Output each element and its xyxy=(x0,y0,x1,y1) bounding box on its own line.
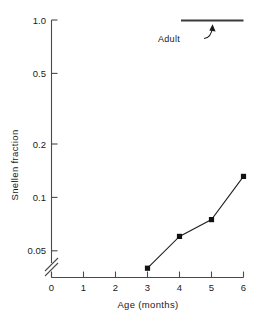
snellen-fraction-chart: 1.0 0.5 0.2 0.1 0.05 0 1 2 3 4 5 6 Age (… xyxy=(0,0,256,326)
x-tick-label: 6 xyxy=(241,282,246,293)
chart-canvas: 1.0 0.5 0.2 0.1 0.05 0 1 2 3 4 5 6 Age (… xyxy=(0,0,256,326)
x-tick-label: 3 xyxy=(145,282,150,293)
y-tick-label: 0.05 xyxy=(28,245,47,256)
data-point xyxy=(241,174,246,179)
x-tick-label: 2 xyxy=(113,282,118,293)
x-tick-label: 4 xyxy=(177,282,182,293)
y-axis-title-text: Snellen fraction xyxy=(9,129,20,200)
x-axis-title: Age (months) xyxy=(117,299,178,310)
x-tick-label: 1 xyxy=(81,282,86,293)
y-tick-label: 0.2 xyxy=(33,139,46,150)
adult-label: Adult xyxy=(158,34,180,44)
y-tick-label: 0.5 xyxy=(33,68,46,79)
x-tick-label: 5 xyxy=(209,282,214,293)
x-tick-marks xyxy=(52,272,244,278)
data-point xyxy=(145,266,150,271)
y-tick-label: 0.1 xyxy=(33,192,46,203)
adult-arrow-icon xyxy=(204,24,216,38)
data-point xyxy=(209,217,214,222)
data-point xyxy=(177,234,182,239)
y-tick-marks xyxy=(52,20,58,251)
series-line xyxy=(148,176,244,268)
y-tick-label: 1.0 xyxy=(33,15,46,26)
x-tick-label: 0 xyxy=(49,282,54,293)
figure-caption-clipped xyxy=(0,317,256,326)
